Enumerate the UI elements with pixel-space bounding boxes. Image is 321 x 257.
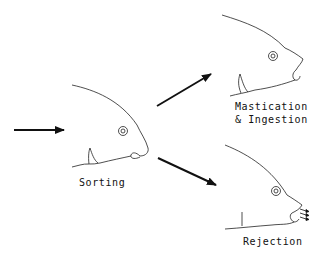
expulsion-arrows-icon xyxy=(300,209,309,221)
label-sorting: Sorting xyxy=(79,176,125,189)
fish-head-rejection-icon xyxy=(225,145,302,229)
diagram-canvas xyxy=(0,0,321,257)
fish-head-sorting-icon xyxy=(72,85,148,167)
label-rejection: Rejection xyxy=(243,235,303,248)
label-ingestion: & Ingestion xyxy=(235,113,308,126)
arrow-to-rejection-icon xyxy=(158,158,216,185)
fish-head-mastication-icon xyxy=(222,15,303,96)
arrow-to-mastication-icon xyxy=(157,74,211,106)
label-mastication: Mastication xyxy=(235,100,308,113)
